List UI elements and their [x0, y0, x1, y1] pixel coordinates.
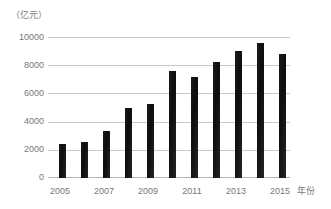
bar-chart-figure: （亿元） 10000 8000 6000 4000 2000 0 2: [0, 0, 331, 209]
x-axis-title: 年份: [297, 186, 315, 196]
x-axis-tick-label-group: 2005 2007 2009 2011 2013 2015: [0, 0, 331, 209]
x-tick-label-2009: 2009: [131, 186, 165, 196]
x-tick-label-2005: 2005: [43, 186, 77, 196]
x-tick-label-2007: 2007: [87, 186, 121, 196]
x-tick-label-2011: 2011: [175, 186, 209, 196]
x-tick-label-2013: 2013: [219, 186, 253, 196]
x-tick-label-2015: 2015: [263, 186, 297, 196]
